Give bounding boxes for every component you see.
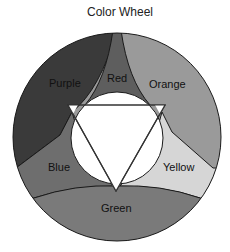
label-yellow: Yellow [163, 161, 194, 173]
color-wheel: Purple Red Orange Yellow Green Blue [0, 0, 230, 252]
label-red: Red [107, 72, 127, 84]
label-blue: Blue [48, 161, 70, 173]
label-orange: Orange [149, 78, 186, 90]
center-circle [71, 92, 163, 184]
label-green: Green [101, 202, 132, 214]
label-purple: Purple [49, 77, 81, 89]
